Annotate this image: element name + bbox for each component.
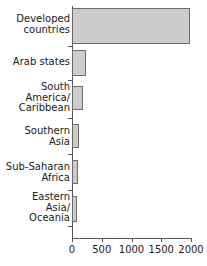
x-axis-tick: [191, 238, 192, 242]
bar-arab-states[interactable]: [72, 50, 86, 76]
y-axis-tick: [68, 118, 72, 119]
category-label-sub-saharan-africa: Sub-Saharan Africa: [0, 162, 70, 183]
category-label-eastern-asia-oceania: Eastern Asia/ Oceania: [0, 192, 70, 224]
y-axis-tick: [68, 154, 72, 155]
bar-sub-saharan-africa[interactable]: [72, 160, 78, 184]
x-axis-tick: [72, 238, 73, 242]
category-label-south-america-caribbean: South America/ Caribbean: [0, 82, 70, 114]
x-axis-tick: [161, 238, 162, 242]
bar-southern-asia[interactable]: [72, 124, 79, 148]
y-axis-tick: [68, 46, 72, 47]
y-axis-tick: [68, 190, 72, 191]
x-axis-tick: [132, 238, 133, 242]
bar-developed-countries[interactable]: [72, 8, 190, 44]
category-label-arab-states: Arab states: [0, 57, 70, 68]
y-axis-tick: [68, 80, 72, 81]
y-axis-tick: [68, 226, 72, 227]
bar-south-america-caribbean[interactable]: [72, 86, 83, 110]
category-label-developed-countries: Developed countries: [0, 14, 70, 35]
bar-eastern-asia-oceania[interactable]: [72, 196, 77, 222]
category-label-southern-asia: Southern Asia: [0, 126, 70, 147]
x-axis-tick-label: 2000: [171, 244, 207, 256]
x-axis-tick: [102, 238, 103, 242]
bar-chart: Developed countries Arab states South Am…: [0, 0, 207, 266]
